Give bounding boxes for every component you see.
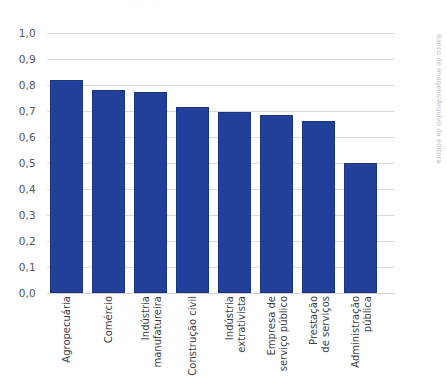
image-credit: Banco de imagens/Arquivo da editora: [433, 34, 445, 194]
x-axis-label: Agropecuária: [50, 296, 83, 387]
bar: [218, 112, 251, 293]
chart-title-text: Participação por setor de atividade: [100, 0, 350, 2]
y-axis-tick-label: 0,2: [19, 235, 36, 247]
y-axis-tick-label: 0,3: [19, 209, 36, 221]
x-axis-label-text: Indústriamanufatureira: [139, 296, 162, 368]
bar-chart-figure: Participação por setor de atividade 1,00…: [0, 0, 447, 387]
x-axis-label: Construção civil: [176, 296, 209, 387]
y-axis-tick-label: 0,4: [19, 183, 36, 195]
x-axis-label: Prestaçãode serviços: [302, 296, 335, 387]
y-axis-tick-label: 0,1: [19, 261, 36, 273]
x-axis-label: Administraçãopública: [344, 296, 377, 387]
y-axis-tick-label: 0,0: [19, 287, 36, 299]
x-axis-label: Indústriamanufatureira: [134, 296, 167, 387]
chart-title-cropped: Participação por setor de atividade: [100, 0, 350, 9]
y-axis-tick-label: 0,9: [19, 53, 36, 65]
bar: [134, 92, 167, 294]
gridline: [47, 293, 395, 294]
image-credit-text: Banco de imagens/Arquivo da editora: [435, 34, 443, 164]
bar: [344, 163, 377, 293]
x-axis-label-text: Administraçãopública: [349, 296, 372, 368]
bar-series: [47, 33, 395, 293]
x-axis-label: Indústriaextrativista: [218, 296, 251, 387]
x-axis-label-text: Prestaçãode serviços: [307, 296, 330, 353]
x-axis-label-text: Indústriaextrativista: [223, 296, 246, 353]
x-axis-label: Empresa deserviço público: [260, 296, 293, 387]
bar: [92, 90, 125, 293]
plot-area: [47, 33, 395, 293]
x-axis-label-text: Construção civil: [187, 296, 199, 376]
y-axis-tick-labels: 1,00,90,80,70,60,50,40,30,20,10,0: [0, 33, 44, 293]
x-axis-category-labels: AgropecuáriaComércioIndústriamanufaturei…: [47, 296, 395, 387]
x-axis-label-text: Empresa deserviço público: [265, 296, 288, 371]
y-axis-tick-label: 0,6: [19, 131, 36, 143]
y-axis-tick-label: 0,7: [19, 105, 36, 117]
bar: [50, 80, 83, 293]
y-axis-tick-label: 0,8: [19, 79, 36, 91]
y-axis-tick-label: 0,5: [19, 157, 36, 169]
x-axis-label-text: Comércio: [103, 296, 115, 343]
bar: [260, 115, 293, 293]
bar: [176, 107, 209, 293]
bar: [302, 121, 335, 293]
y-axis-tick-label: 1,0: [19, 27, 36, 39]
x-axis-label: Comércio: [92, 296, 125, 387]
x-axis-label-text: Agropecuária: [61, 296, 73, 363]
